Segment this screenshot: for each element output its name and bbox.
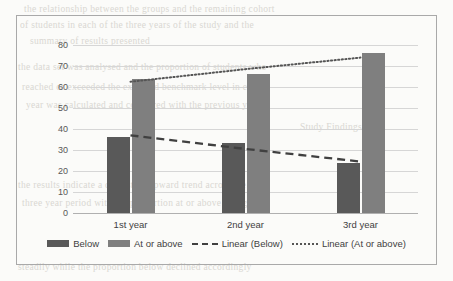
y-axis-tick-label: 20 <box>58 166 68 176</box>
y-axis-tick-label: 10 <box>58 187 68 197</box>
y-axis-tick-label: 30 <box>58 145 68 155</box>
legend-label: At or above <box>134 238 183 249</box>
x-axis-line: 0 <box>73 213 418 214</box>
legend-label: Linear (Below) <box>222 238 283 249</box>
legend-item-below[interactable]: Below <box>47 238 99 249</box>
x-axis-tick-label: 1st year <box>114 219 148 230</box>
legend-item-linear-below[interactable]: Linear (Below) <box>192 238 283 249</box>
legend-item-linear-at-or-above[interactable]: Linear (At or above) <box>292 238 406 249</box>
y-axis-tick-label: 80 <box>58 40 68 50</box>
trendlines <box>73 45 418 213</box>
x-axis-tick-label: 2nd year <box>227 219 264 230</box>
scanned-page: the relationship between the groups and … <box>0 0 453 281</box>
y-axis-tick-label: 60 <box>58 82 68 92</box>
trendline-linear-below <box>131 135 361 161</box>
y-axis-tick-label: 70 <box>58 61 68 71</box>
legend-swatch-below <box>47 240 69 247</box>
legend-line-dashed-icon <box>192 240 218 247</box>
y-axis-tick-label: 50 <box>58 103 68 113</box>
chart-legend: BelowAt or aboveLinear (Below)Linear (At… <box>17 238 436 249</box>
trendline-linear-at-or-above <box>131 58 361 82</box>
y-axis-tick-label: 40 <box>58 124 68 134</box>
chart-container: 80706050403020100 1st year2nd year3rd ye… <box>16 15 437 265</box>
x-axis-tick-label: 3rd year <box>343 219 378 230</box>
plot-area: 80706050403020100 1st year2nd year3rd ye… <box>73 45 418 213</box>
legend-line-dotted-icon <box>292 240 318 247</box>
legend-swatch-at-or-above <box>108 240 130 247</box>
legend-label: Linear (At or above) <box>322 238 406 249</box>
y-axis-tick-label: 0 <box>63 208 68 218</box>
background-text-line: the relationship between the groups and … <box>24 4 275 14</box>
legend-label: Below <box>73 238 99 249</box>
legend-item-at-or-above[interactable]: At or above <box>108 238 183 249</box>
